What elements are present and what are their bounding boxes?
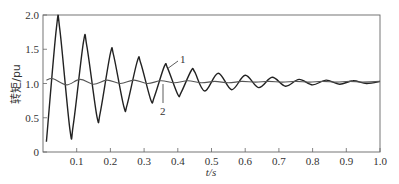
leader-line-1 bbox=[167, 61, 178, 69]
x-axis-label: t/s bbox=[206, 166, 216, 178]
series-line-1 bbox=[46, 15, 380, 142]
x-tick-label: 0.2 bbox=[104, 155, 118, 167]
y-tick-label: 0 bbox=[34, 146, 40, 158]
torque-chart: 00.51.01.52.0 0.10.20.30.40.50.60.70.80.… bbox=[0, 0, 399, 184]
x-axis-ticks: 0.10.20.30.40.50.60.70.80.91.0 bbox=[70, 148, 388, 167]
x-tick-label: 1.0 bbox=[373, 155, 387, 167]
y-axis-ticks: 00.51.01.52.0 bbox=[25, 9, 47, 158]
y-axis-label: 转矩/pu bbox=[9, 64, 23, 104]
annotation-label-2: 2 bbox=[160, 105, 166, 117]
series-annotations: 1 2 bbox=[160, 53, 186, 117]
y-tick-label: 0.5 bbox=[25, 112, 39, 124]
x-tick-label: 0.7 bbox=[272, 155, 286, 167]
y-tick-label: 2.0 bbox=[25, 9, 39, 21]
plot-frame bbox=[43, 15, 380, 152]
x-tick-label: 0.6 bbox=[238, 155, 252, 167]
x-tick-label: 0.8 bbox=[306, 155, 320, 167]
x-tick-label: 0.4 bbox=[171, 155, 185, 167]
y-tick-label: 1.5 bbox=[25, 43, 39, 55]
x-tick-label: 0.1 bbox=[70, 155, 84, 167]
y-tick-label: 1.0 bbox=[25, 78, 39, 90]
annotation-label-1: 1 bbox=[180, 53, 186, 65]
series-lines bbox=[46, 15, 380, 142]
x-tick-label: 0.9 bbox=[339, 155, 353, 167]
x-tick-label: 0.3 bbox=[137, 155, 151, 167]
y-axis-label-text: 转矩/pu bbox=[9, 64, 23, 104]
